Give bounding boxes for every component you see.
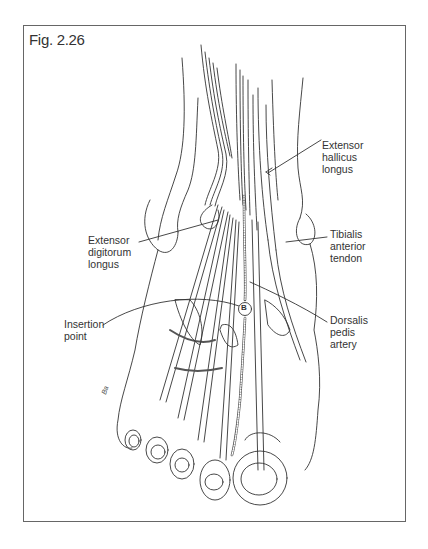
label-line: artery <box>330 338 368 350</box>
label-line: Insertion <box>64 318 104 330</box>
label-line: Extensor <box>88 234 131 246</box>
label-line: anterior <box>330 240 366 252</box>
label-line: hallicus <box>322 151 363 163</box>
label-line: longus <box>322 163 363 175</box>
label-line: tendon <box>330 252 366 264</box>
marker-b: B <box>241 303 247 313</box>
label-tibialis-anterior-tendon: Tibialis anterior tendon <box>330 228 366 264</box>
label-line: point <box>64 330 104 342</box>
label-insertion-point: Insertion point <box>64 318 104 342</box>
label-line: digitorum <box>88 246 131 258</box>
label-line: pedis <box>330 326 368 338</box>
foot-anatomy-illustration <box>0 0 428 549</box>
label-extensor-hallucis-longus: Extensor hallicus longus <box>322 139 363 175</box>
label-line: Tibialis <box>330 228 366 240</box>
label-line: Extensor <box>322 139 363 151</box>
label-line: longus <box>88 258 131 270</box>
label-line: Dorsalis <box>330 314 368 326</box>
label-dorsalis-pedis-artery: Dorsalis pedis artery <box>330 314 368 350</box>
label-extensor-digitorum-longus: Extensor digitorum longus <box>88 234 131 270</box>
